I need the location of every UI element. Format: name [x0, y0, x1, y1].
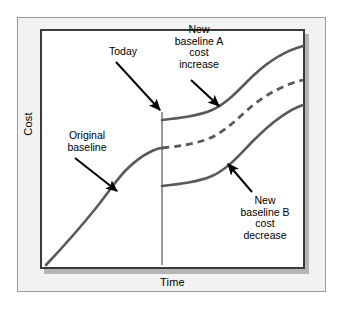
- y-axis-label: Cost: [22, 94, 34, 154]
- annotation-new-baseline-b: New baseline B cost decrease: [228, 195, 302, 241]
- annotation-new-baseline-a: New baseline A cost increase: [166, 24, 232, 70]
- annotation-today: Today: [101, 46, 145, 58]
- x-axis-label: Time: [40, 276, 305, 288]
- cost-time-baseline-diagram: Cost Time Today New baseline A cost incr…: [0, 0, 343, 309]
- annotation-original-baseline: Original baseline: [52, 130, 122, 153]
